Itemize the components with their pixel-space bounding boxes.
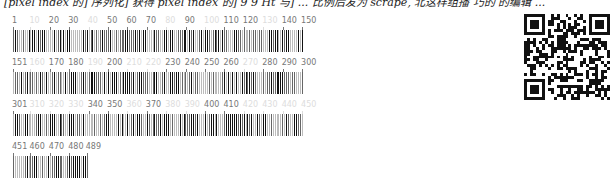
position-label: 340 [88,100,103,109]
position-label: 330 [68,100,83,109]
position-label: 360 [126,100,141,109]
position-label: 160 [29,58,44,67]
position-label: 100 [204,16,219,25]
position-label: 370 [146,100,161,109]
position-label: 90 [185,16,195,25]
position-label: 210 [126,58,141,67]
row-labels: 451460470480489 [13,142,304,153]
sequence-bar [302,72,304,94]
position-label: 80 [165,16,175,25]
position-label: 380 [165,100,180,109]
sequence-bar [302,30,304,52]
position-label: 460 [29,142,44,151]
clipped-header-text: [pixel index 的] 序列化] 获得 pixel index 的] 9… [4,0,545,9]
qr-code [524,14,610,100]
row-labels: 1102030405060708090100110120130140150 [13,16,304,27]
position-label: 151 [12,58,27,67]
position-label: 390 [185,100,200,109]
position-label: 280 [262,58,277,67]
position-label: 320 [49,100,64,109]
row-labels: 3013103203303403503603703803904004104204… [13,100,304,111]
position-label: 20 [49,16,59,25]
position-label: 1 [12,16,17,25]
barcode-row-3: 3013103203303403503603703803904004104204… [13,100,304,136]
position-label: 260 [223,58,238,67]
position-label: 30 [68,16,78,25]
position-label: 480 [68,142,83,151]
position-label: 150 [301,16,316,25]
position-label: 170 [49,58,64,67]
position-label: 470 [49,142,64,151]
position-label: 240 [185,58,200,67]
position-label: 270 [243,58,258,67]
position-label: 489 [86,142,101,151]
row-bars [13,30,304,52]
position-label: 451 [12,142,27,151]
position-label: 350 [107,100,122,109]
position-label: 190 [88,58,103,67]
position-label: 70 [146,16,156,25]
position-label: 420 [243,100,258,109]
position-label: 310 [29,100,44,109]
barcode-row-4: 451460470480489 [13,142,304,178]
position-label: 50 [107,16,117,25]
sequence-bar [87,156,89,178]
position-label: 410 [223,100,238,109]
row-bars [13,114,304,136]
row-bars [13,156,304,178]
position-label: 250 [204,58,219,67]
position-label: 290 [282,58,297,67]
position-label: 120 [243,16,258,25]
position-label: 230 [165,58,180,67]
position-label: 130 [262,16,277,25]
position-label: 440 [282,100,297,109]
position-label: 180 [68,58,83,67]
barcode-row-1: 1102030405060708090100110120130140150 [13,16,304,52]
position-label: 60 [126,16,136,25]
position-label: 140 [282,16,297,25]
sequence-bar [302,114,304,136]
position-label: 301 [12,100,27,109]
barcode-row-2: 1511601701801902002102202302402502602702… [13,58,304,94]
position-label: 200 [107,58,122,67]
position-label: 430 [262,100,277,109]
row-bars [13,72,304,94]
position-label: 300 [301,58,316,67]
position-label: 110 [223,16,238,25]
position-label: 450 [301,100,316,109]
row-labels: 1511601701801902002102202302402502602702… [13,58,304,69]
position-label: 10 [29,16,39,25]
position-label: 40 [88,16,98,25]
position-label: 400 [204,100,219,109]
position-label: 220 [146,58,161,67]
